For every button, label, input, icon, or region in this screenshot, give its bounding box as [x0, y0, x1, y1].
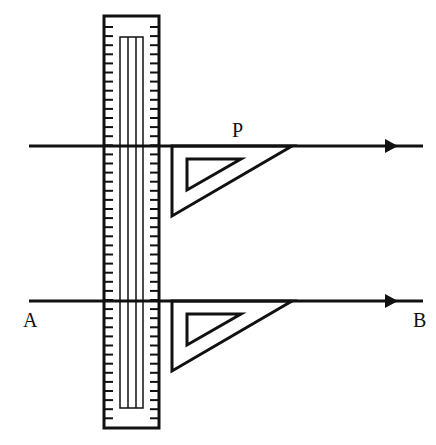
diagram-canvas	[0, 0, 436, 445]
point-b-label: B	[413, 310, 426, 330]
ruler	[104, 16, 159, 428]
point-p-label: P	[232, 120, 243, 140]
set-square-top-inner	[187, 159, 241, 190]
ruler-tick-marks	[104, 27, 159, 418]
point-a-label: A	[23, 310, 37, 330]
set-square-bottom-inner	[187, 314, 241, 345]
arrowhead-icon	[385, 139, 398, 153]
set-square-bottom	[172, 301, 292, 371]
arrowhead-icon	[385, 294, 398, 308]
set-square-top	[172, 146, 292, 216]
ruler-inner-strip	[120, 37, 143, 408]
